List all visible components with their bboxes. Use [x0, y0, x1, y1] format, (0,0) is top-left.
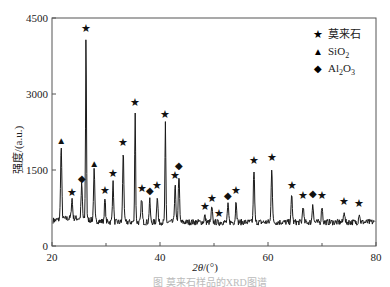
- star-icon: ★: [108, 167, 118, 179]
- diamond-icon: ◆: [175, 160, 183, 171]
- legend-item-al2o3: ◆ Al2O3: [314, 62, 355, 77]
- y-tick-label: 3000: [26, 88, 49, 100]
- legend-label-mullite: 莫来石: [328, 28, 361, 40]
- star-icon: ★: [287, 179, 297, 191]
- star-icon: ★: [313, 28, 323, 40]
- y-tick-label: 4500: [26, 12, 49, 24]
- legend-label-sio2: SiO2: [328, 45, 349, 60]
- y-tick-label: 0: [43, 240, 49, 252]
- y-tick-label: 1500: [26, 164, 49, 176]
- star-icon: ★: [160, 108, 170, 120]
- diamond-icon: ◆: [309, 188, 317, 199]
- star-icon: ★: [152, 179, 162, 191]
- x-tick-label: 60: [263, 251, 275, 263]
- star-icon: ★: [298, 189, 308, 201]
- star-icon: ★: [118, 136, 128, 148]
- x-tick-label: 20: [47, 251, 59, 263]
- star-icon: ★: [207, 192, 217, 204]
- star-icon: ★: [81, 22, 91, 34]
- star-icon: ★: [130, 96, 140, 108]
- triangle-icon: ▲: [313, 46, 323, 57]
- diamond-icon: ◆: [314, 63, 322, 74]
- y-axis-title: 强度/(a.u.): [11, 126, 25, 175]
- star-icon: ★: [339, 195, 349, 207]
- x-tick-label: 40: [155, 251, 167, 263]
- star-icon: ★: [100, 184, 110, 196]
- x-axis-title: 2θ/(°): [192, 261, 218, 274]
- star-icon: ★: [231, 184, 241, 196]
- legend-label-al2o3: Al2O3: [328, 62, 355, 77]
- star-icon: ★: [249, 154, 259, 166]
- legend: ★ 莫来石 ▲ SiO2 ◆ Al2O3: [313, 28, 361, 77]
- diamond-icon: ◆: [78, 173, 86, 184]
- x-axis: 20406080: [47, 242, 383, 263]
- star-icon: ★: [317, 189, 327, 201]
- figure-caption: 图 莫来石样品的XRD图谱: [153, 276, 267, 287]
- star-icon: ★: [214, 207, 224, 219]
- triangle-icon: ▲: [89, 158, 99, 169]
- star-icon: ★: [67, 186, 77, 198]
- xrd-chart: 20406080 0150030004500 ▲★◆★▲★★★★★◆★★★◆★★…: [0, 0, 390, 287]
- legend-item-mullite: ★ 莫来石: [313, 28, 361, 40]
- legend-item-sio2: ▲ SiO2: [313, 45, 349, 60]
- triangle-icon: ▲: [56, 135, 66, 146]
- star-icon: ★: [267, 151, 277, 163]
- star-icon: ★: [354, 197, 364, 209]
- x-tick-label: 80: [371, 251, 383, 263]
